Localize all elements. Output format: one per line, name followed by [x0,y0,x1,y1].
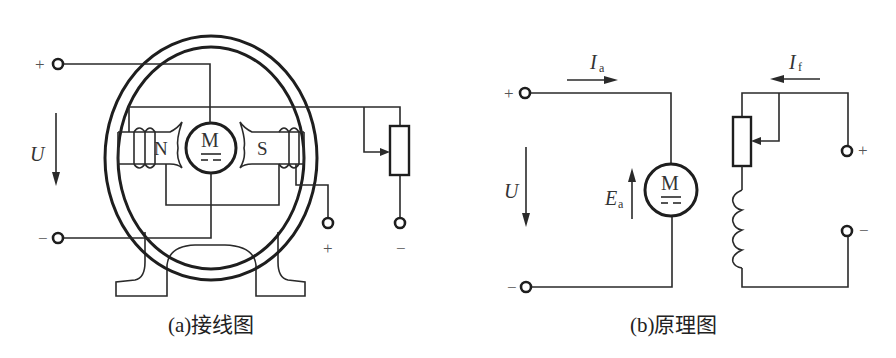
rheostat-tap-wire [364,107,386,152]
field-wire-bottom-b [742,236,848,287]
rheostat-tap-wire-b [756,93,779,141]
armature-wire-bottom-b [529,216,672,287]
pole-bar-left [118,122,182,168]
field-minus-sign-b: − [859,221,869,240]
armature-wire-top-b [529,93,671,164]
north-pole-label: N [154,138,168,159]
svg-text:M: M [201,129,219,151]
plus-sign-b: + [504,84,514,103]
panel-a-wiring: N S M + − + − U [30,36,409,337]
field-current-arrowhead [770,75,784,83]
pole-bar-right [240,122,304,168]
terminal-plus-a[interactable] [53,59,63,69]
panel-b-schematic: M + − I a U E a + − [504,51,869,337]
field-coil-left [118,128,155,168]
field-plus-sign-b: + [858,141,868,160]
field-terminal-plus-a[interactable] [323,218,333,228]
voltage-arrowhead-a [52,172,60,186]
plus-sign-a: + [35,55,45,74]
housing-outer-ring [105,36,317,280]
armature-current-arrowhead [604,76,618,84]
field-current-label: I [788,51,797,73]
voltage-label-a: U [30,143,46,165]
minus-sign-a: − [38,229,48,248]
field-wire-top-b [742,93,848,146]
caption-a: (a)接线图 [168,313,254,337]
rheostat-arrow [380,148,390,156]
motor-symbol-b: M [645,164,697,216]
minus-sign-b: − [507,278,517,297]
terminal-minus-b[interactable] [521,282,531,292]
emf-arrowhead [628,168,636,182]
caption-b: (b)原理图 [630,313,718,337]
emf-label: E [604,187,617,209]
field-terminal-plus-b[interactable] [842,146,852,156]
terminal-plus-b[interactable] [520,88,530,98]
voltage-arrowhead-b [522,213,530,227]
armature-current-subscript: a [599,61,605,75]
field-plus-sign-a: + [323,239,333,258]
armature-current-label: I [589,51,598,73]
field-coil-right [279,128,304,168]
motor-base [116,232,305,296]
field-minus-sign-a: − [396,239,406,258]
svg-text:M: M [661,172,679,194]
rheostat-b [733,117,751,166]
rheostat-a [390,126,409,175]
south-pole-label: S [257,138,268,159]
field-wire-top [129,107,400,132]
voltage-label-b: U [504,180,520,202]
motor-wiring-diagram: N S M + − + − U [0,0,896,358]
field-current-subscript: f [798,60,802,74]
emf-subscript: a [618,197,624,211]
rheostat-arrow-b [751,137,761,145]
field-terminal-minus-b[interactable] [842,226,852,236]
field-inductor [733,190,742,268]
terminal-minus-a[interactable] [53,233,63,243]
field-terminal-minus-a[interactable] [395,218,405,228]
motor-symbol-a: M [186,123,236,173]
